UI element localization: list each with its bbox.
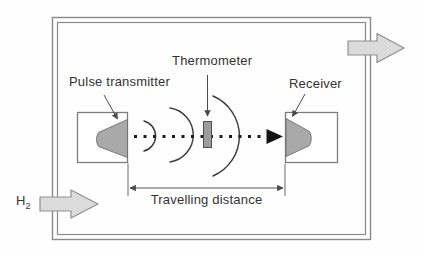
thermometer-label: Thermometer	[172, 54, 252, 68]
gas-inlet-arrow-icon	[40, 190, 98, 218]
receiver-label: Receiver	[289, 77, 342, 91]
h2-symbol: H	[16, 193, 26, 208]
gas-outlet-arrow-icon	[348, 34, 404, 63]
pulse-transmitter-label: Pulse transmitter	[69, 75, 170, 89]
beam-arrowhead-icon	[267, 129, 284, 144]
diagram-graphics	[0, 0, 425, 256]
travelling-distance-label: Travelling distance	[128, 193, 285, 207]
h2-subscript: 2	[26, 201, 31, 211]
h2-gas-label: H2	[16, 194, 31, 208]
diagram-canvas: Pulse transmitter Thermometer Receiver T…	[0, 0, 425, 256]
wavefront-arc-large	[213, 96, 239, 176]
thermometer-probe	[204, 122, 212, 148]
